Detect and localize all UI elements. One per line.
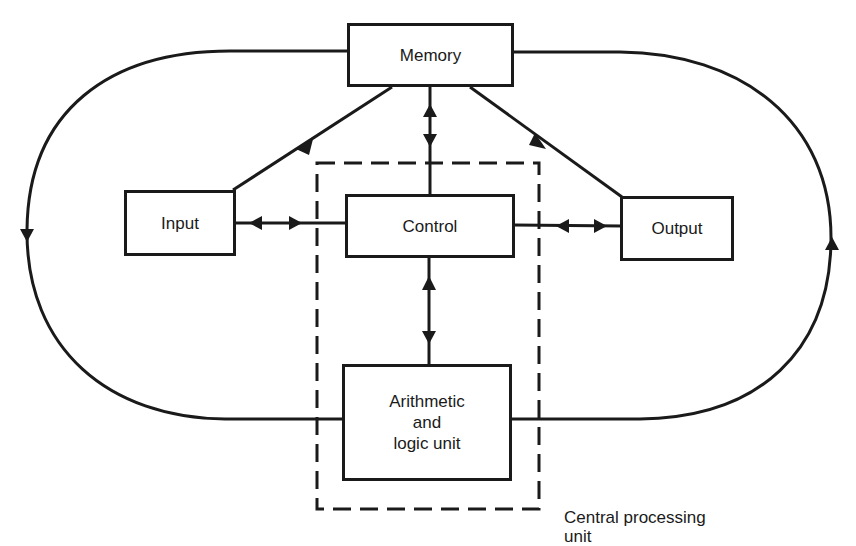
cpu-group-label: Central processing unit xyxy=(564,508,706,546)
memory-to-output-line xyxy=(470,87,622,197)
output-label: Output xyxy=(651,218,702,239)
alu-label-line1: Arithmetic xyxy=(389,391,465,412)
arrow-left-icon xyxy=(249,216,262,230)
memory-box: Memory xyxy=(347,23,514,87)
arrow-down-icon xyxy=(423,134,437,147)
alu-label-line3: logic unit xyxy=(393,433,460,454)
memory-label: Memory xyxy=(400,45,461,66)
alu-box: Arithmetic and logic unit xyxy=(342,364,512,481)
arrow-up-icon xyxy=(825,237,839,250)
arrow-up-icon xyxy=(422,276,436,290)
arrow-left-icon xyxy=(556,219,569,233)
input-box: Input xyxy=(124,190,236,256)
arrow-right-icon xyxy=(289,216,302,230)
input-label: Input xyxy=(161,213,199,234)
control-box: Control xyxy=(345,194,515,258)
output-box: Output xyxy=(620,196,734,261)
cpu-label-line2: unit xyxy=(564,527,706,546)
alu-label-line2: and xyxy=(413,412,441,433)
arrow-up-icon xyxy=(423,104,437,117)
arrow-right-icon xyxy=(594,219,607,233)
arrow-down-icon xyxy=(20,229,34,242)
arrow-down-icon xyxy=(422,331,436,344)
cpu-label-line1: Central processing xyxy=(564,508,706,527)
input-to-memory-line xyxy=(233,87,392,190)
control-label: Control xyxy=(403,216,458,237)
